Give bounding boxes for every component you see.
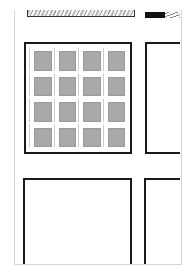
tile-face [108,102,126,122]
grid-tile [103,73,128,99]
tile-face [83,128,101,148]
tile-face [83,77,101,97]
tile-face [83,102,101,122]
grid-tile [78,47,103,73]
top-scribble [165,12,180,18]
bottom-right-panel [144,178,180,264]
grid-panel [24,42,132,154]
top-sketch-strip [27,10,135,17]
tile-face [34,128,52,148]
tile-grid [29,47,127,149]
tile-face [59,77,77,97]
grid-tile [29,47,54,73]
grid-tile [54,47,79,73]
tile-face [34,102,52,122]
tile-face [83,51,101,71]
grid-tile [103,47,128,73]
tile-face [59,102,77,122]
tile-face [108,77,126,97]
right-panel-middle [145,42,180,154]
tile-face [34,51,52,71]
top-black-bar [145,12,165,18]
tile-face [59,51,77,71]
bottom-left-panel [23,178,132,264]
grid-tile [54,73,79,99]
grid-tile [54,124,79,150]
grid-tile [78,98,103,124]
tile-face [108,51,126,71]
tile-face [59,128,77,148]
grid-tile [29,124,54,150]
tile-face [34,77,52,97]
grid-tile [103,124,128,150]
grid-tile [54,98,79,124]
grid-tile [29,98,54,124]
grid-tile [29,73,54,99]
grid-tile [78,73,103,99]
grid-tile [78,124,103,150]
grid-tile [103,98,128,124]
tile-face [108,128,126,148]
